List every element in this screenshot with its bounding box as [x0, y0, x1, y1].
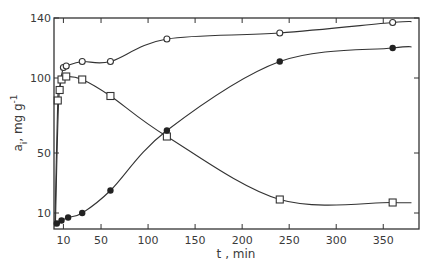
y-tick-label: 50 [37, 147, 51, 160]
filled-circle-marker [277, 58, 283, 64]
open-square-marker [107, 93, 114, 100]
x-axis-ticks: 1050100150200250300350 [56, 18, 393, 247]
open-circle-marker [390, 20, 396, 26]
x-tick-label: 300 [326, 234, 347, 247]
x-tick-label: 150 [185, 234, 206, 247]
y-axis-label: ai, mg g-1 [9, 94, 29, 151]
open-circle-marker [277, 30, 283, 36]
open-circle-marker [63, 63, 69, 69]
x-tick-label: 350 [373, 234, 394, 247]
filled-circle-marker [58, 217, 64, 223]
y-axis-ticks: 1050100140 [30, 12, 419, 220]
open-square-marker [79, 76, 86, 83]
open-square-marker [54, 97, 61, 104]
x-tick-label: 100 [138, 234, 159, 247]
y-tick-label: 100 [30, 72, 51, 85]
chart: 1050100150200250300350 1050100140 t , mi… [0, 0, 431, 266]
filled-circle-marker [65, 214, 71, 220]
open-square-marker [163, 133, 170, 140]
open-circle-marker [164, 36, 170, 42]
x-tick-label: 10 [56, 234, 70, 247]
open-circle-marker [79, 59, 85, 65]
open-square-marker [63, 73, 70, 80]
filled-circle-marker [79, 210, 85, 216]
filled-circle-marker [164, 127, 170, 133]
data-curves [54, 21, 411, 226]
filled-circle-marker [389, 45, 395, 51]
open-circle-marker [107, 59, 113, 65]
y-tick-label: 10 [37, 207, 51, 220]
filled-circle-marker [107, 187, 113, 193]
y-tick-label: 140 [30, 12, 51, 25]
x-tick-label: 200 [232, 234, 253, 247]
open-square-marker [389, 199, 396, 206]
x-axis-label: t , min [217, 247, 256, 261]
open-circles-curve [55, 21, 411, 225]
open-square-marker [276, 196, 283, 203]
open-square-marker [56, 87, 63, 94]
x-tick-label: 50 [94, 234, 108, 247]
x-tick-label: 250 [279, 234, 300, 247]
filled-circles-curve [54, 47, 411, 227]
